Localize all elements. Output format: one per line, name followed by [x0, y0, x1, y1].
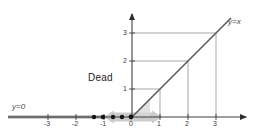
- x-tick-label-0: 0: [129, 120, 133, 127]
- zero-ray-label: y=0: [12, 102, 25, 111]
- y-tick-label-1: 1: [123, 85, 127, 92]
- x-tick-label--2: -2: [72, 120, 78, 127]
- y-tick-label-2: 2: [123, 57, 127, 64]
- vertical-droplines: [160, 33, 216, 117]
- x-tick-label-3: 3: [213, 120, 217, 127]
- plot-area: [0, 0, 256, 138]
- dot: [129, 115, 134, 120]
- x-tick-label--3: -3: [44, 120, 50, 127]
- dot: [120, 115, 124, 119]
- x-tick-label-2: 2: [185, 120, 189, 127]
- dead-zone-arrow: [104, 99, 162, 124]
- dot: [101, 115, 105, 119]
- figure-canvas: -3 -2 -1 0 1 2 3 1 2 3 Dead y=x y=0: [0, 0, 256, 138]
- identity-line-label: y=x: [228, 17, 241, 26]
- dead-region-label: Dead: [88, 72, 113, 83]
- x-tick-label--1: -1: [100, 120, 106, 127]
- dot: [92, 115, 96, 119]
- dot: [111, 115, 115, 119]
- x-tick-label-1: 1: [157, 120, 161, 127]
- horizontal-gridlines: [132, 33, 216, 89]
- y-tick-label-3: 3: [123, 29, 127, 36]
